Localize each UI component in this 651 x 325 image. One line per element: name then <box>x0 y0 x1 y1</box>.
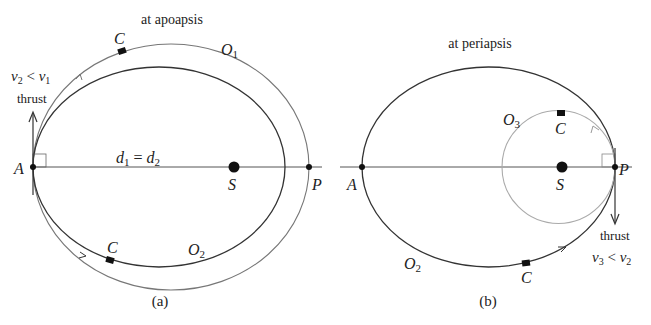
label-c-bottom-a: C <box>107 239 118 256</box>
direction-arrow-o2-a <box>79 252 86 258</box>
spacecraft-marker-top-b <box>557 110 565 116</box>
label-a-b: A <box>346 176 357 193</box>
star-s-dot-b <box>557 162 568 173</box>
label-a: A <box>13 160 24 177</box>
label-o2-a: O2 <box>188 241 205 260</box>
point-a-dot <box>30 164 36 170</box>
caption-a: (a) <box>152 293 169 310</box>
panel-b-title: at periapsis <box>448 36 511 51</box>
label-c-bottom-b: C <box>521 269 532 286</box>
label-o2-b: O2 <box>404 255 421 274</box>
point-p-dot <box>306 164 312 170</box>
label-s: S <box>228 176 236 193</box>
point-a-dot-b <box>359 164 365 170</box>
velocity-relation-b: v3 < v2 <box>592 249 631 267</box>
label-p-b: P <box>618 161 629 178</box>
point-p-dot-b <box>612 164 618 170</box>
label-c-top-a: C <box>114 30 125 47</box>
spacecraft-marker-bottom-a <box>105 256 114 264</box>
spacecraft-marker-bottom-b <box>522 259 531 266</box>
spacecraft-marker-top-a <box>117 47 126 55</box>
velocity-relation-a: v2 < v1 <box>11 68 50 86</box>
distance-equation: d1 = d2 <box>116 149 160 168</box>
orbit-transfer-diagram: at apoapsis A S P C C O1 O2 d1 = d2 v2 <… <box>0 0 651 325</box>
panel-a: at apoapsis A S P C C O1 O2 d1 = d2 v2 <… <box>11 12 322 310</box>
label-s-b: S <box>556 176 564 193</box>
caption-b: (b) <box>479 293 497 310</box>
thrust-label-b: thrust <box>600 228 630 243</box>
panel-a-title: at apoapsis <box>141 12 203 27</box>
label-p: P <box>311 176 322 193</box>
label-o3: O3 <box>503 111 521 130</box>
star-s-dot <box>229 162 240 173</box>
thrust-label-a: thrust <box>17 91 47 106</box>
label-o1: O1 <box>221 41 238 60</box>
panel-b: at periapsis A S P C C O3 O2 thrust v3 <… <box>340 36 632 310</box>
label-c-top-b: C <box>555 120 566 137</box>
